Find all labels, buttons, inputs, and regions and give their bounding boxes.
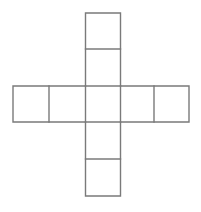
figure-background <box>0 0 201 212</box>
cube-net-figure: Cube net (cross-shaped hexomino) Line dr… <box>0 0 201 212</box>
figure-canvas: Cube net (cross-shaped hexomino) Line dr… <box>0 0 201 212</box>
